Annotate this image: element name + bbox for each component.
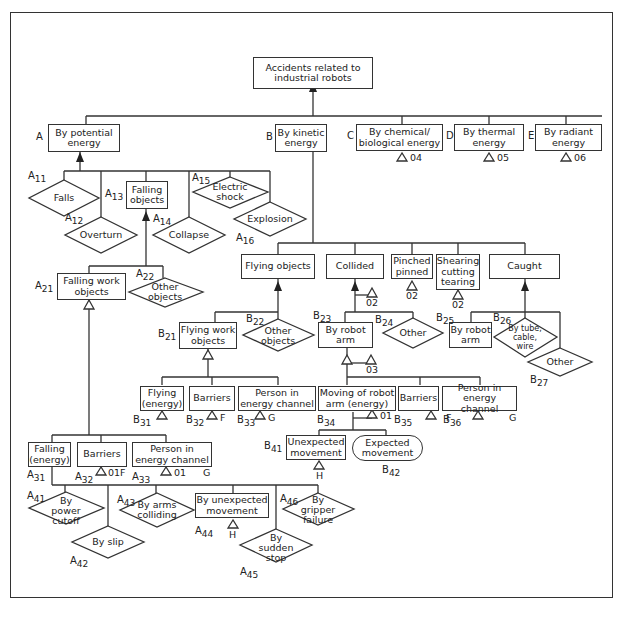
event-B41-box: Unexpected movement xyxy=(286,435,346,460)
id-label-A14: A14 xyxy=(153,213,171,227)
event-A13-label: Falling objects xyxy=(127,185,167,206)
transfer-collided: 02 xyxy=(366,297,378,308)
diamond-A12-text: Overturn xyxy=(72,227,130,243)
event-B23-label: By robot arm xyxy=(319,325,372,346)
event-B32-label: Barriers xyxy=(193,393,230,404)
event-B33-label: Person in energy channel xyxy=(239,388,315,409)
event-B-label: By kinetic energy xyxy=(276,128,326,149)
id-label-A12: A12 xyxy=(65,212,83,226)
id-label-E: E xyxy=(528,130,534,141)
event-B23-box: By robot arm xyxy=(318,322,373,348)
transfer-A44: H xyxy=(229,529,236,540)
id-label-B22: B22 xyxy=(246,313,264,327)
id-label-B25: B25 xyxy=(436,312,454,326)
id-label-B26: B26 xyxy=(493,312,511,326)
id-label-A42: A42 xyxy=(70,555,88,569)
gate-note-B33: G xyxy=(268,412,275,423)
event-pinched-label: Pinched pinned xyxy=(392,256,432,277)
transfer-C: 04 xyxy=(410,152,422,163)
event-caught-label: Caught xyxy=(507,261,541,272)
event-B36-box: Person in energy channel xyxy=(442,386,517,411)
id-label-B33: B33 xyxy=(237,414,255,428)
id-label-C: C xyxy=(347,130,354,141)
id-label-A21: A21 xyxy=(35,280,53,294)
event-B34-box: Moving of robot arm (energy) xyxy=(318,386,396,411)
id-label-B35: B35 xyxy=(394,414,412,428)
transfer-A32: 01F xyxy=(108,467,126,478)
id-label-B41: B41 xyxy=(264,440,282,454)
id-label-B24: B24 xyxy=(375,314,393,328)
gate-note-B36: G xyxy=(509,412,516,423)
id-label-B36: B36 xyxy=(443,414,461,428)
gate-note-B32: F xyxy=(220,412,225,423)
event-D-label: By thermal energy xyxy=(455,127,523,148)
transfer-B23: 03 xyxy=(366,364,378,375)
event-E-box: By radiant energy xyxy=(535,124,602,151)
event-B-box: By kinetic energy xyxy=(275,124,327,152)
event-C-label: By chemical/ biological energy xyxy=(357,127,442,148)
event-B35-box: Barriers xyxy=(398,386,439,411)
id-label-B34: B34 xyxy=(317,414,335,428)
id-label-B23: B23 xyxy=(313,310,331,324)
id-label-A43: A43 xyxy=(117,494,135,508)
id-label-B27: B27 xyxy=(530,374,548,388)
event-B33-box: Person in energy channel xyxy=(238,386,316,411)
id-label-B42: B42 xyxy=(382,464,400,478)
id-label-B31: B31 xyxy=(133,414,151,428)
event-shearing-label: Shearing cutting tearing xyxy=(437,256,479,288)
transfer-pinched: 02 xyxy=(406,290,418,301)
id-label-A16: A16 xyxy=(236,232,254,246)
event-C-box: By chemical/ biological energy xyxy=(356,124,443,151)
id-label-A22: A22 xyxy=(136,268,154,282)
event-collided-box: Collided xyxy=(326,254,384,279)
event-B36-label: Person in energy channel xyxy=(443,383,516,415)
event-A-box: By potential energy xyxy=(48,124,120,152)
diamond-A15-text: Electric shock xyxy=(204,180,256,204)
id-label-B32: B32 xyxy=(186,414,204,428)
id-label-A31: A31 xyxy=(27,469,45,483)
event-shearing-box: Shearing cutting tearing xyxy=(436,254,480,290)
diamond-A43-text: By arms colliding xyxy=(132,498,182,522)
diamond-B27-text: Other xyxy=(538,354,582,370)
diamond-B24-text: Other xyxy=(393,325,433,341)
transfer-D: 05 xyxy=(497,152,509,163)
event-A33-box: Person in energy channel xyxy=(132,442,212,467)
event-B31-label: Flying (energy) xyxy=(141,388,183,409)
event-A31-box: Falling (energy) xyxy=(28,442,71,467)
gate-note-A33: G xyxy=(203,467,210,478)
diamond-B26-text: By tube, cable, wire xyxy=(505,322,545,352)
event-A-label: By potential energy xyxy=(49,128,119,149)
diamond-A16-text: Explosion xyxy=(242,211,298,227)
top-event-label: Accidents related to industrial robots xyxy=(254,63,372,84)
diamond-B22-text: Other objects xyxy=(255,325,301,347)
event-B32-box: Barriers xyxy=(189,386,235,411)
diamond-A41-text: By power cutoff xyxy=(44,497,88,525)
diamond-A46-text: By gripper failure xyxy=(296,494,340,526)
id-label-A33: A33 xyxy=(132,471,150,485)
event-A13-box: Falling objects xyxy=(126,181,168,209)
transfer-A33: 01 xyxy=(174,467,186,478)
event-B25-box: By robot arm xyxy=(449,322,492,348)
id-label-A: A xyxy=(36,131,43,142)
transfer-B41: H xyxy=(316,470,323,481)
transfer-B34: 01 xyxy=(380,410,392,421)
event-A21-label: Falling work objects xyxy=(58,276,125,297)
diamond-A22-text: Other objects xyxy=(140,281,190,303)
event-B31-box: Flying (energy) xyxy=(140,386,184,411)
id-label-A13: A13 xyxy=(105,188,123,202)
event-B21-label: Flying work objects xyxy=(180,325,236,346)
transfer-E: 06 xyxy=(574,152,586,163)
event-pinched-box: Pinched pinned xyxy=(391,254,433,279)
event-A21-box: Falling work objects xyxy=(57,273,126,300)
event-B42-box: Expected movement xyxy=(352,435,423,461)
id-label-D: D xyxy=(446,130,454,141)
id-label-A44: A44 xyxy=(195,525,213,539)
id-label-A41: A41 xyxy=(27,490,45,504)
event-B21-box: Flying work objects xyxy=(179,322,237,349)
diamond-A42-text: By slip xyxy=(88,530,128,554)
event-B41-label: Unexpected movement xyxy=(287,437,345,458)
event-A32-label: Barriers xyxy=(83,449,120,460)
event-E-label: By radiant energy xyxy=(536,127,601,148)
diamond-A45-text: By sudden stop xyxy=(254,532,298,564)
top-event-box: Accidents related to industrial robots xyxy=(253,57,373,89)
